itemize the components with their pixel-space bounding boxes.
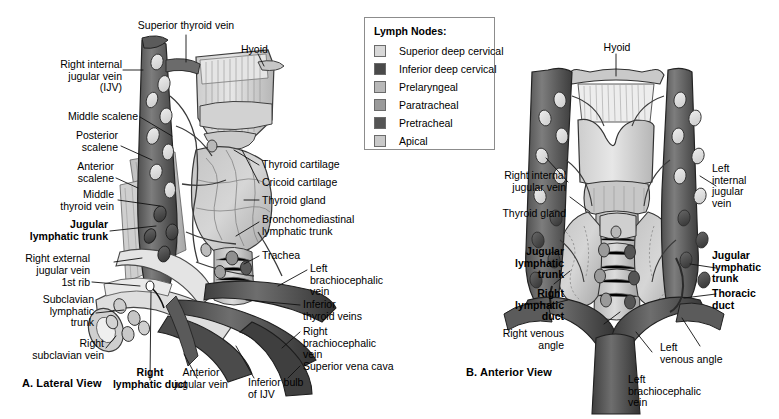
label-anterior-jugular-vein: Anterior jugular vein: [164, 367, 238, 390]
legend-item-paratracheal: Paratracheal: [374, 98, 459, 112]
label-superior-vena-cava: Superior vena cava: [303, 361, 413, 373]
label-1st-rib: 1st rib: [38, 277, 90, 289]
label-subclavian-lymphatic-trunk: Subclavian lymphatic trunk: [18, 294, 94, 329]
panel-b-title: B. Anterior View: [466, 366, 552, 378]
label-inferior-bulb-of-ijv: Inferior bulb of IJV: [248, 377, 318, 400]
label-left-internal-jugular-vein: Left internal jugular vein: [712, 163, 772, 209]
label-left-venous-angle: Left venous angle: [660, 342, 738, 365]
label-bronchomediastinal-lymphatic-trunk: Bronchomediastinal lymphatic trunk: [262, 214, 372, 237]
label-jugular-lymphatic-trunk-b-right: Jugular lymphatic trunk: [712, 250, 776, 285]
legend-swatch-superior-deep-cervical: [374, 45, 386, 57]
panel-a-text: Lateral View: [36, 377, 101, 389]
legend-box: Lymph Nodes: Superior deep cervical Infe…: [364, 17, 495, 150]
legend-label-paratracheal: Paratracheal: [399, 99, 459, 111]
label-thyroid-gland-b: Thyroid gland: [474, 208, 566, 220]
legend-item-pretracheal: Pretracheal: [374, 116, 453, 130]
legend-label-pretracheal: Pretracheal: [399, 117, 453, 129]
legend-label-superior-deep-cervical: Superior deep cervical: [399, 45, 503, 57]
label-trachea-a: Trachea: [262, 250, 332, 262]
panel-a-letter: A.: [22, 377, 33, 389]
label-left-brachiocephalic-vein-a: Left brachiocephalic vein: [310, 263, 390, 298]
legend-swatch-pretracheal: [374, 117, 386, 129]
label-middle-thyroid-vein: Middle thyroid vein: [22, 189, 114, 212]
legend-swatch-inferior-deep-cervical: [374, 63, 386, 75]
label-superior-thyroid-vein: Superior thyroid vein: [110, 20, 262, 32]
label-right-external-jugular-vein: Right external jugular vein: [8, 253, 90, 276]
label-thoracic-duct: Thoracic duct: [712, 288, 776, 311]
label-right-lymphatic-duct-b: Right lymphatic duct: [480, 288, 564, 323]
legend-label-apical: Apical: [399, 135, 428, 147]
label-posterior-scalene: Posterior scalene: [36, 130, 118, 153]
panel-b-letter: B.: [466, 366, 477, 378]
label-jugular-lymphatic-trunk-a: Jugular lymphatic trunk: [8, 219, 108, 242]
label-inferior-thyroid-veins: Inferior thyroid veins: [303, 299, 383, 322]
label-right-internal-jugular-vein-b: Right internal jugular vein: [470, 170, 566, 193]
legend-item-apical: Apical: [374, 134, 428, 148]
label-right-venous-angle: Right venous angle: [500, 328, 564, 351]
legend-label-prelaryngeal: Prelaryngeal: [399, 81, 458, 93]
legend-swatch-prelaryngeal: [374, 81, 386, 93]
label-left-brachiocephalic-vein-b: Left brachiocephalic vein: [628, 374, 720, 409]
label-thyroid-gland-a: Thyroid gland: [262, 195, 354, 207]
label-hyoid-b: Hyoid: [590, 42, 644, 54]
panel-b-text: Anterior View: [480, 366, 552, 378]
label-right-internal-jugular-vein-a: Right internal jugular vein (IJV): [30, 59, 122, 94]
legend-swatch-paratracheal: [374, 99, 386, 111]
legend-title: Lymph Nodes:: [374, 25, 447, 37]
legend-label-inferior-deep-cervical: Inferior deep cervical: [399, 63, 496, 75]
label-middle-scalene: Middle scalene: [28, 111, 138, 123]
panel-a-title: A. Lateral View: [22, 377, 102, 389]
label-right-brachiocephalic-vein: Right brachiocephalic vein: [303, 326, 383, 361]
label-anterior-scalene: Anterior scalene: [36, 161, 114, 184]
label-jugular-lymphatic-trunk-b-left: Jugular lymphatic trunk: [480, 246, 564, 281]
legend-item-superior-deep-cervical: Superior deep cervical: [374, 44, 503, 58]
label-right-subclavian-vein: Right subclavian vein: [12, 338, 104, 361]
anatomy-figure-page: Lymph Nodes: Superior deep cervical Infe…: [0, 0, 779, 419]
legend-item-prelaryngeal: Prelaryngeal: [374, 80, 458, 94]
legend-item-inferior-deep-cervical: Inferior deep cervical: [374, 62, 496, 76]
legend-swatch-apical: [374, 135, 386, 147]
label-hyoid-a: Hyoid: [241, 44, 301, 56]
label-cricoid-cartilage: Cricoid cartilage: [262, 177, 362, 189]
label-thyroid-cartilage: Thyroid cartilage: [262, 159, 362, 171]
